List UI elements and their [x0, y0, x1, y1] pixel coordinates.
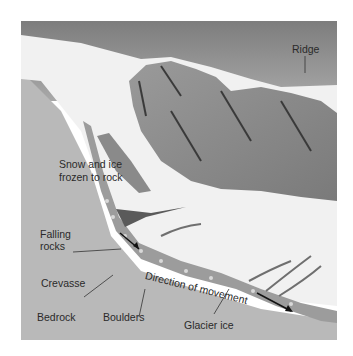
label-falling-rocks-line1: Falling — [40, 228, 71, 240]
glacier-diagram: Ridge Snow and ice frozen to rock Fallin… — [21, 21, 337, 340]
label-ridge: Ridge — [292, 43, 319, 55]
label-boulders: Boulders — [103, 311, 144, 323]
label-snow-ice-line1: Snow and ice — [59, 158, 122, 170]
label-snow-ice-line2: frozen to rock — [59, 171, 123, 183]
label-falling-rocks-line2: rocks — [40, 240, 65, 252]
label-crevasse: Crevasse — [41, 277, 85, 289]
label-glacier-ice: Glacier ice — [184, 319, 234, 331]
label-bedrock: Bedrock — [37, 311, 76, 323]
